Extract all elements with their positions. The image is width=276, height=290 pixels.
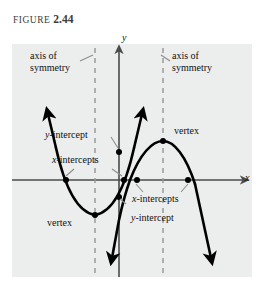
y-intercept-upper-text: -intercept <box>49 129 87 140</box>
dot-vertex-downward <box>160 138 166 144</box>
dot-y-intercept-upward <box>116 149 122 155</box>
label-x-intercepts-lower: x-intercepts <box>132 193 179 205</box>
x-axis-label: x <box>245 172 249 183</box>
figure-caption: Figure2.44 <box>13 9 73 27</box>
dot-x-intercept-upward-left <box>63 177 69 183</box>
dot-y-intercept-downward <box>116 194 122 200</box>
dot-x-intercept-downward-left <box>134 177 140 183</box>
axis-of-symmetry-left-line1: axis of <box>30 50 57 61</box>
label-y-intercept-lower: y-intercept <box>131 212 174 224</box>
label-axis-of-symmetry-right: axis of symmetry <box>172 50 212 74</box>
x-intercepts-upper-text: -intercepts <box>56 154 98 165</box>
leader-x-intercepts-lower-right <box>181 184 188 192</box>
x-intercepts-lower-text: -intercepts <box>136 193 178 204</box>
label-x-intercepts-upper: x-intercepts <box>52 154 99 166</box>
y-intercept-lower-text: -intercept <box>135 212 173 223</box>
dot-vertex-upward <box>92 212 98 218</box>
figure-root: Figure2.44 <box>0 0 276 290</box>
leader-axis-symmetry-left <box>80 55 93 61</box>
axis-of-symmetry-left-line2: symmetry <box>30 62 70 73</box>
figure-caption-word: Figure <box>13 15 50 25</box>
label-vertex-right: vertex <box>174 125 199 137</box>
leader-y-intercept-upper <box>111 137 118 148</box>
downward-parabola-arrow-left <box>112 220 119 258</box>
y-axis-label: y <box>122 32 126 43</box>
leader-x-intercepts-upper-left <box>66 169 74 176</box>
figure-caption-number: 2.44 <box>53 13 73 25</box>
downward-parabola-arrow-right <box>195 184 211 258</box>
label-y-intercept-upper: y-intercept <box>45 129 88 141</box>
label-axis-of-symmetry-left: axis of symmetry <box>30 50 70 74</box>
axis-of-symmetry-right-line1: axis of <box>172 50 199 61</box>
axis-of-symmetry-right-line2: symmetry <box>172 62 212 73</box>
upward-parabola-arrow-right <box>134 114 142 148</box>
label-vertex-left: vertex <box>47 217 72 229</box>
dot-x-intercept-downward-right <box>185 177 191 183</box>
leader-x-intercepts-lower-left <box>136 184 143 192</box>
dot-x-intercept-upward-right <box>121 177 127 183</box>
figure-panel: y x axis of symmetry axis of symmetry y-… <box>12 44 252 277</box>
parabola-graph <box>12 44 252 277</box>
